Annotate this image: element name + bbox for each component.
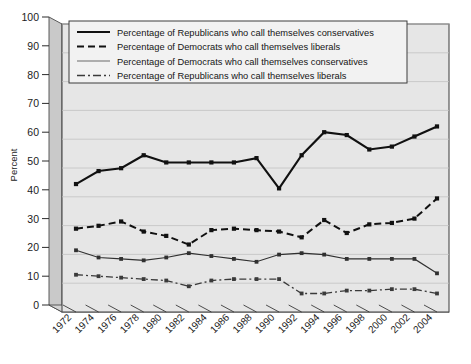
data-point xyxy=(164,256,168,260)
y-tick-90: 90 xyxy=(27,40,39,52)
data-point xyxy=(74,227,78,231)
data-point xyxy=(96,169,100,173)
data-point xyxy=(232,160,236,164)
data-point xyxy=(413,257,417,261)
data-point xyxy=(300,153,304,157)
y-tick-40: 40 xyxy=(27,184,39,196)
y-tick-60: 60 xyxy=(27,126,39,138)
y-tick-70: 70 xyxy=(27,97,39,109)
data-point xyxy=(97,274,101,278)
data-point xyxy=(187,284,191,288)
data-point xyxy=(435,124,439,128)
data-point xyxy=(390,145,394,149)
data-point xyxy=(74,248,78,252)
data-point xyxy=(119,257,123,261)
legend-label-republicans-conservatives: Percentage of Republicans who call thems… xyxy=(117,28,374,38)
data-point xyxy=(142,277,146,281)
data-point xyxy=(367,147,371,151)
data-point xyxy=(435,292,439,296)
line-chart: 100 90 80 70 60 50 40 30 20 10 0 Percent… xyxy=(0,0,471,364)
data-point xyxy=(435,196,439,200)
y-tick-80: 80 xyxy=(27,69,39,81)
data-point xyxy=(367,289,371,293)
data-point xyxy=(412,134,416,138)
data-point xyxy=(300,251,304,255)
data-point xyxy=(435,271,439,275)
y-tick-30: 30 xyxy=(27,213,39,225)
data-point xyxy=(164,234,168,238)
data-point xyxy=(322,130,326,134)
data-point xyxy=(367,257,371,261)
data-point xyxy=(345,289,349,293)
data-point xyxy=(322,218,326,222)
data-point xyxy=(277,277,281,281)
chart-container: 100 90 80 70 60 50 40 30 20 10 0 Percent… xyxy=(0,0,471,364)
data-point xyxy=(119,276,123,280)
y-axis-title: Percent xyxy=(8,148,19,181)
data-point xyxy=(367,222,371,226)
data-point xyxy=(300,292,304,296)
data-point xyxy=(277,229,281,233)
data-point xyxy=(390,287,394,291)
data-point xyxy=(345,133,349,137)
data-point xyxy=(232,257,236,261)
data-point xyxy=(345,257,349,261)
data-point xyxy=(254,228,258,232)
data-point xyxy=(254,156,258,160)
data-point xyxy=(119,166,123,170)
legend-label-democrats-conservatives: Percentage of Democrats who call themsel… xyxy=(117,57,368,67)
data-point xyxy=(187,251,191,255)
data-point xyxy=(142,229,146,233)
data-point xyxy=(255,260,259,264)
data-point xyxy=(164,160,168,164)
legend-label-democrats-liberals: Percentage of Democrats who call themsel… xyxy=(117,42,341,52)
data-point xyxy=(209,279,213,283)
data-point xyxy=(413,287,417,291)
data-point xyxy=(209,160,213,164)
data-point xyxy=(345,231,349,235)
data-point xyxy=(322,292,326,296)
y-tick-0: 0 xyxy=(33,299,39,311)
data-point xyxy=(300,235,304,239)
legend: Percentage of Republicans who call thems… xyxy=(69,21,407,83)
data-point xyxy=(209,254,213,258)
legend-label-republicans-liberals: Percentage of Republicans who call thems… xyxy=(117,71,347,81)
data-point xyxy=(187,160,191,164)
data-point xyxy=(142,258,146,262)
data-point xyxy=(97,256,101,260)
data-point xyxy=(119,219,123,223)
y-tick-100: 100 xyxy=(21,11,39,23)
data-point xyxy=(232,227,236,231)
data-point xyxy=(390,257,394,261)
data-point xyxy=(164,279,168,283)
y-tick-20: 20 xyxy=(27,241,39,253)
data-point xyxy=(232,277,236,281)
y-tick-10: 10 xyxy=(27,270,39,282)
data-point xyxy=(142,153,146,157)
y-tick-50: 50 xyxy=(27,155,39,167)
data-point xyxy=(412,217,416,221)
data-point xyxy=(322,253,326,257)
data-point xyxy=(96,224,100,228)
data-point xyxy=(209,228,213,232)
data-point xyxy=(74,182,78,186)
data-point xyxy=(255,277,259,281)
data-point xyxy=(390,221,394,225)
data-point xyxy=(277,253,281,257)
data-point xyxy=(187,242,191,246)
data-point xyxy=(74,273,78,277)
chart-left-wall xyxy=(49,17,62,312)
data-point xyxy=(277,186,281,190)
